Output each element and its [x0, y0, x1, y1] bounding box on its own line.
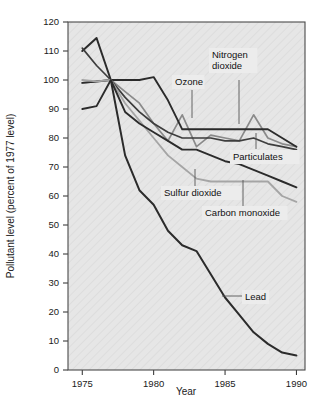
series-label-sulfur-dioxide: Sulfur dioxide: [164, 187, 222, 198]
x-tick-label: 1975: [72, 378, 93, 389]
y-tick-label: 100: [43, 74, 59, 85]
x-tick-label: 1990: [286, 378, 307, 389]
x-tick-label: 1980: [143, 378, 164, 389]
y-tick-label: 70: [48, 161, 59, 172]
y-tick-label: 90: [48, 103, 59, 114]
y-axis-title: Pollutant level (percent of 1977 level): [5, 114, 16, 279]
y-tick-label: 40: [48, 248, 59, 259]
x-tick-label: 1985: [214, 378, 235, 389]
series-label-nitrogen: Nitrogen: [212, 49, 248, 60]
y-tick-label: 110: [44, 45, 59, 56]
series-label-ozone: Ozone: [175, 76, 203, 87]
y-tick-label: 60: [48, 190, 59, 201]
y-tick-label: 10: [48, 335, 59, 346]
y-tick-label: 120: [43, 16, 59, 27]
series-label-lead: Lead: [245, 291, 266, 302]
x-axis-title: Year: [176, 386, 197, 397]
series-label-particulates: Particulates: [233, 151, 283, 162]
y-tick-label: 0: [54, 364, 59, 375]
series-label-carbon-monoxide: Carbon monoxide: [205, 207, 280, 218]
chart-svg: 0102030405060708090100110120 19751980198…: [0, 0, 314, 402]
y-tick-label: 30: [48, 277, 59, 288]
y-tick-label: 50: [48, 219, 59, 230]
y-tick-label: 20: [48, 306, 59, 317]
series-label-nitrogen: dioxide: [212, 60, 242, 71]
pollutant-trend-chart: 0102030405060708090100110120 19751980198…: [0, 0, 314, 402]
y-tick-label: 80: [48, 132, 59, 143]
